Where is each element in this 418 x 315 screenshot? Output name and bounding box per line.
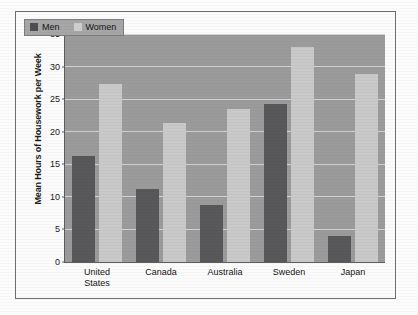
bar-women-united-states	[99, 84, 122, 262]
x-axis-category-label: Sweden	[273, 267, 306, 278]
legend-entry-men: Men	[30, 22, 60, 32]
y-axis-tick-label: 25	[50, 94, 60, 104]
x-axis-category-label: United States	[84, 267, 110, 289]
page-background: Mean Hours of Housework per Week 0510152…	[0, 0, 418, 315]
bar-men-japan	[328, 236, 351, 262]
x-axis-category-label: Canada	[145, 267, 177, 278]
y-tick-mark	[62, 99, 65, 100]
bar-women-australia	[227, 109, 250, 262]
y-tick-mark	[62, 164, 65, 165]
y-tick-mark	[62, 229, 65, 230]
y-axis-tick-label: 15	[50, 159, 60, 169]
legend-swatch-men-icon	[30, 23, 38, 31]
y-tick-mark	[62, 262, 65, 263]
figure-frame: Mean Hours of Housework per Week 0510152…	[15, 11, 396, 299]
legend-swatch-women-icon	[74, 23, 82, 31]
x-axis-category-label: Australia	[207, 267, 242, 278]
bar-women-sweden	[291, 47, 314, 262]
bar-chart: Mean Hours of Housework per Week 0510152…	[16, 12, 397, 300]
chart-legend: Men Women	[24, 19, 124, 36]
y-axis-tick-label: 30	[50, 62, 60, 72]
bar-men-sweden	[264, 104, 287, 262]
bar-men-united-states	[72, 156, 95, 262]
plot-area: 05101520253035United StatesCanadaAustral…	[64, 34, 385, 263]
y-axis-tick-label: 20	[50, 127, 60, 137]
legend-label-women: Women	[86, 22, 117, 32]
legend-label-men: Men	[42, 22, 60, 32]
legend-entry-women: Women	[74, 22, 117, 32]
y-tick-mark	[62, 196, 65, 197]
bar-women-japan	[355, 74, 378, 262]
y-axis-tick-label: 10	[50, 192, 60, 202]
bar-women-canada	[163, 123, 186, 262]
x-axis-category-label: Japan	[341, 267, 366, 278]
bar-men-canada	[136, 189, 159, 262]
y-axis-title: Mean Hours of Housework per Week	[33, 34, 43, 224]
y-tick-mark	[62, 131, 65, 132]
y-axis-tick-label: 0	[55, 257, 60, 267]
y-axis-tick-label: 5	[55, 224, 60, 234]
gridline	[65, 66, 385, 67]
y-tick-mark	[62, 66, 65, 67]
bar-men-australia	[200, 205, 223, 262]
